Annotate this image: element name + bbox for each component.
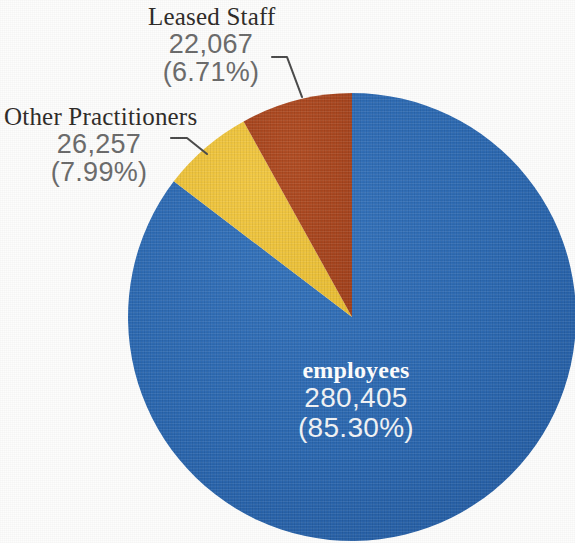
pie-chart-canvas — [0, 0, 575, 543]
pie-chart-figure: Leased Staff 22,067 (6.71%) Other Practi… — [0, 0, 575, 543]
slice-label-leased-staff-percent: (6.71%) — [148, 58, 274, 86]
slice-label-other-practitioners: Other Practitioners 26,257 (7.99%) — [4, 104, 194, 186]
slice-label-other-practitioners-value: 26,257 — [4, 130, 194, 158]
slice-label-leased-staff-name: Leased Staff — [148, 3, 276, 30]
slice-label-employees: employees 280,405 (85.30%) — [256, 358, 456, 442]
slice-label-leased-staff: Leased Staff 22,067 (6.71%) — [148, 4, 274, 86]
slice-label-leased-staff-value: 22,067 — [148, 30, 274, 58]
pie-svg — [0, 0, 575, 543]
slice-label-other-practitioners-name: Other Practitioners — [4, 103, 197, 130]
slice-label-other-practitioners-percent: (7.99%) — [4, 158, 194, 186]
slice-label-employees-percent: (85.30%) — [256, 413, 456, 442]
slice-label-employees-name: employees — [256, 358, 456, 383]
slice-label-employees-value: 280,405 — [256, 383, 456, 412]
